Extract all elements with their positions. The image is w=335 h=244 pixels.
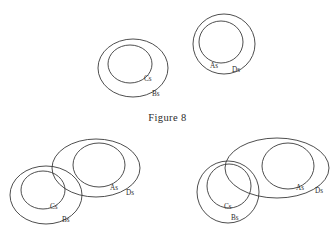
set-curve-cs	[207, 164, 251, 208]
set-curve-bs	[197, 161, 259, 223]
figure-page: Cs Bs As Ds Cs Bs As Ds Cs B	[0, 0, 335, 244]
set-label-as: As	[296, 184, 304, 192]
set-label-bs: Bs	[231, 214, 239, 222]
set-label-bs: Bs	[62, 216, 70, 224]
set-curve-ds	[225, 138, 329, 198]
set-label-as: As	[110, 184, 118, 192]
set-label-bs: Bs	[152, 90, 160, 98]
set-curve-ds	[193, 14, 255, 74]
diagram-bottom-left: Cs Bs As Ds	[10, 139, 140, 224]
diagram-top-right: As Ds	[193, 14, 255, 74]
set-curve-as	[262, 143, 314, 189]
set-curve-as	[73, 143, 125, 187]
set-curve-cs	[21, 171, 65, 209]
set-label-cs: Cs	[224, 203, 232, 211]
diagram-bottom-right: Cs Bs As Ds	[197, 138, 329, 223]
set-curve-as	[199, 21, 243, 63]
set-label-ds: Ds	[232, 66, 240, 74]
diagram-top-left: Cs Bs	[98, 39, 168, 98]
set-label-as: As	[210, 62, 218, 70]
set-curve-bs	[10, 166, 82, 224]
set-label-cs: Cs	[144, 75, 152, 83]
set-label-ds: Ds	[126, 189, 134, 197]
figure-caption: Figure 8	[0, 112, 335, 123]
set-label-ds: Ds	[315, 187, 323, 195]
set-label-cs: Cs	[50, 203, 58, 211]
